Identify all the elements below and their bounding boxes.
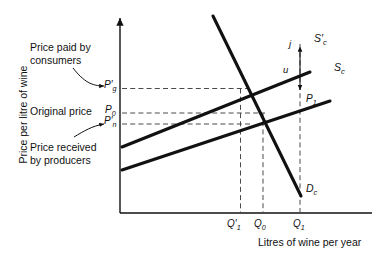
- price-label-pn-prime: P′n: [104, 115, 117, 128]
- quantity-label-q0-base: Q: [254, 218, 262, 229]
- annotation-consumers-line1: Price paid by: [30, 41, 91, 54]
- price-label-pn-prime-sub: n: [113, 120, 117, 129]
- quantity-label-q0: Q0: [254, 218, 266, 231]
- price-label-pg-prime-sub: g: [113, 84, 117, 93]
- y-axis-title: Price per litre of wine: [17, 45, 30, 185]
- curve-label-supply-shifted-base: S: [314, 32, 321, 44]
- annotation-price-received-by-producers: Price received by producers: [30, 141, 97, 167]
- quantity-label-q1-base: Q: [293, 218, 301, 229]
- curve-label-demand-base: D: [306, 182, 314, 194]
- price-label-p1-base: P: [306, 93, 313, 104]
- supply-curve-shifted: [122, 72, 310, 147]
- price-label-pn-prime-base: P: [104, 115, 111, 126]
- wedge-marker-j: j: [289, 38, 291, 50]
- price-label-p1-sub: 1: [313, 98, 317, 107]
- curve-label-supply-shifted: S′c: [314, 32, 327, 45]
- annotation-producers-line1: Price received: [30, 141, 97, 154]
- price-label-pg-prime: P′g: [104, 79, 117, 92]
- curve-label-supply-shifted-sub: c: [323, 38, 327, 47]
- annotation-price-paid-by-consumers: Price paid by consumers: [30, 41, 91, 67]
- annotation-consumers-line2: consumers: [30, 54, 91, 67]
- wine-tax-incidence-figure: Price per litre of wine Litres of wine p…: [0, 0, 381, 265]
- price-label-pg-prime-base: P: [104, 79, 111, 90]
- quantity-label-q1: Q1: [293, 218, 305, 231]
- price-label-p0-base: P: [105, 104, 112, 115]
- quantity-label-q1-prime: Q′1: [227, 218, 241, 231]
- quantity-label-q1-prime-base: Q: [227, 218, 235, 229]
- wedge-marker-u: u: [283, 64, 288, 76]
- curve-label-demand-sub: c: [314, 188, 318, 197]
- quantity-label-q0-sub: 0: [262, 223, 266, 232]
- price-label-p1: P1: [306, 93, 317, 106]
- annotation-arrow-consumers: [73, 68, 104, 86]
- curve-label-supply-original-sub: c: [341, 67, 345, 76]
- x-axis-title: Litres of wine per year: [258, 236, 361, 249]
- annotation-producers-line2: by producers: [30, 154, 97, 167]
- curve-label-supply-original: Sc: [334, 61, 345, 74]
- annotation-arrow-producers: [74, 124, 104, 137]
- quantity-label-q1-prime-sub: 1: [237, 223, 241, 232]
- quantity-label-q1-sub: 1: [301, 223, 305, 232]
- curve-label-supply-original-base: S: [334, 61, 341, 73]
- annotation-original-price: Original price: [30, 105, 92, 118]
- curve-label-demand: Dc: [306, 182, 317, 195]
